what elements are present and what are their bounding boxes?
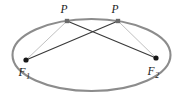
point-marker-p-right [116, 19, 120, 23]
label-focus-two-letter: F [146, 65, 155, 77]
point-marker-p-left [65, 19, 69, 23]
ellipse-figure: P P F 1 F 2 [0, 0, 181, 104]
label-focus-one-subscript: 1 [26, 72, 30, 81]
ellipse-outline [13, 19, 171, 91]
label-point-left: P [59, 3, 67, 15]
label-focus-one-letter: F [17, 66, 26, 78]
focus-dot-f1 [23, 57, 28, 62]
label-focus-two-subscript: 2 [155, 71, 159, 80]
label-focus-one: F 1 [17, 66, 30, 81]
ellipse-diagram: P P F 1 F 2 [0, 0, 181, 104]
label-point-right: P [110, 3, 118, 15]
focus-dot-f2 [153, 55, 158, 60]
segment-f1-to-p-left [26, 21, 67, 60]
